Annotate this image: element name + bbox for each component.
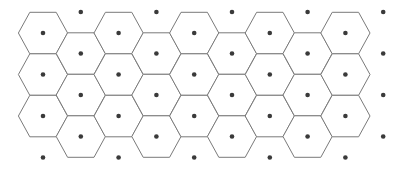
site-dot: [381, 51, 386, 56]
site-dot: [268, 114, 273, 119]
site-dot: [116, 155, 121, 160]
site-dot: [154, 10, 159, 15]
site-dot: [230, 51, 235, 56]
site-dot: [192, 114, 197, 119]
site-dot: [305, 10, 310, 15]
site-dot: [116, 72, 121, 77]
site-dot: [230, 93, 235, 98]
site-dot: [116, 31, 121, 36]
site-dot: [343, 31, 348, 36]
site-dot: [230, 134, 235, 139]
site-dot: [381, 93, 386, 98]
site-dot: [41, 155, 46, 160]
site-dot: [381, 134, 386, 139]
site-dot: [41, 72, 46, 77]
site-dot: [79, 51, 84, 56]
site-dot: [41, 31, 46, 36]
site-dot: [305, 134, 310, 139]
site-dot: [192, 31, 197, 36]
site-dot: [79, 93, 84, 98]
site-dot: [343, 72, 348, 77]
site-dot: [79, 134, 84, 139]
site-dot: [268, 31, 273, 36]
site-dot: [41, 114, 46, 119]
site-dot: [343, 155, 348, 160]
site-dot: [154, 93, 159, 98]
site-dot: [230, 10, 235, 15]
site-dot: [343, 114, 348, 119]
site-dot: [381, 10, 386, 15]
site-dot: [79, 10, 84, 15]
voronoi-hex-diagram: [0, 0, 405, 173]
site-dot: [192, 72, 197, 77]
site-dot: [116, 114, 121, 119]
site-dot: [192, 155, 197, 160]
site-dot: [268, 72, 273, 77]
site-dot: [154, 51, 159, 56]
site-dot: [154, 134, 159, 139]
site-dot: [305, 51, 310, 56]
site-dot: [268, 155, 273, 160]
site-dot: [305, 93, 310, 98]
